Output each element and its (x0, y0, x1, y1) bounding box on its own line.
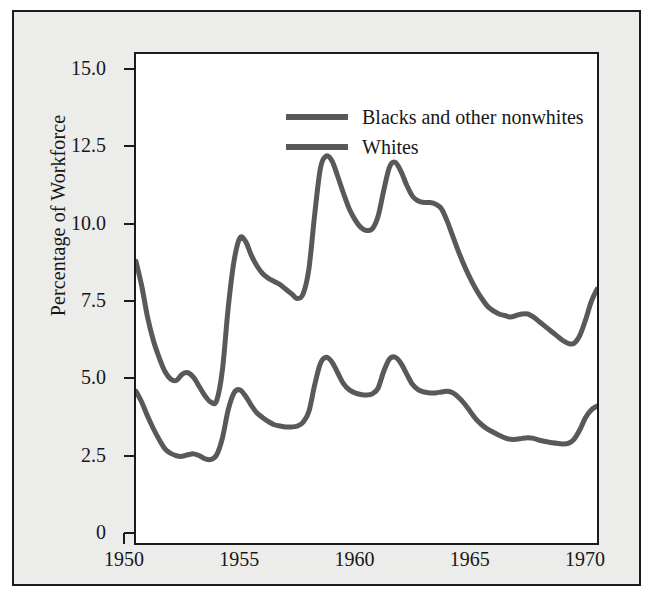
y-tick-label: 10.0 (44, 213, 106, 233)
y-tick-label: 5.0 (44, 367, 106, 387)
y-tick-label: 12.5 (44, 135, 106, 155)
chart-legend: Blacks and other nonwhites Whites (286, 102, 584, 162)
legend-swatch-icon (286, 114, 348, 120)
x-tick-label: 1955 (194, 549, 284, 569)
legend-swatch-icon (286, 144, 348, 150)
legend-label: Whites (362, 136, 419, 159)
legend-label: Blacks and other nonwhites (362, 106, 584, 129)
legend-item-blacks-and-other-nonwhites: Blacks and other nonwhites (286, 102, 584, 132)
y-tick-label: 0 (44, 522, 106, 542)
chart-figure: Percentage of Workforce 15.012.510.07.55… (0, 0, 655, 600)
legend-item-whites: Whites (286, 132, 584, 162)
y-tick-label: 15.0 (44, 58, 106, 78)
x-tick-label: 1950 (79, 549, 169, 569)
plot-area: Blacks and other nonwhites Whites (134, 52, 599, 545)
x-tick-mark (123, 533, 125, 544)
x-tick-label: 1965 (425, 549, 515, 569)
y-tick-label: 7.5 (44, 290, 106, 310)
line-whites (136, 357, 597, 460)
line-blacks-and-other-nonwhites (136, 156, 597, 404)
x-tick-label: 1970 (540, 549, 630, 569)
y-tick-label: 2.5 (44, 445, 106, 465)
figure-paper-background: Percentage of Workforce 15.012.510.07.55… (12, 10, 641, 586)
x-tick-label: 1960 (310, 549, 400, 569)
